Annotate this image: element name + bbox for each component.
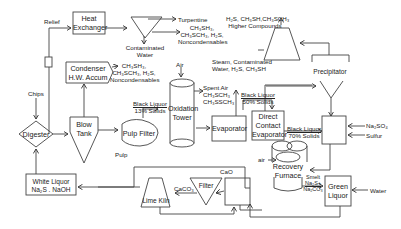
- cw-line-2: Water: [125, 51, 165, 58]
- water-label: Water: [370, 187, 386, 194]
- cond-gases-line-1: CH₃SH₃,: [110, 62, 158, 69]
- smelt-label: Smelt Na₂S+ Na₂CO₃: [302, 174, 324, 192]
- bl70-line-2: 70% Solids: [286, 132, 322, 139]
- caco3-label: CaCO₃: [174, 185, 194, 192]
- sulfur-label: Sulfur: [366, 132, 382, 139]
- recovery-furnace: Recovery Furnace: [270, 162, 306, 180]
- steam-line-1: Steam, Contaminated: [212, 58, 264, 65]
- spent-air-line-1: Spent Air: [203, 84, 234, 91]
- he-gases-label: CH₃SH₃, CH₃SCH₃, H₂S, Noncondensables: [178, 24, 226, 45]
- spent-air-label: Spent Air CH₃SCH₃ CH₃SSCH₃: [203, 84, 234, 105]
- dce-line-3: Evaporator: [252, 130, 284, 139]
- cond-gases-line-3: Noncondensables: [110, 76, 158, 83]
- turpentine-label: Turpentine: [178, 16, 207, 23]
- he-gases-line-2: CH₃SCH₃, H₂S,: [178, 31, 226, 38]
- hc-line-2: Higher Compounds: [226, 22, 284, 29]
- white-liquor-line-2: Na₂S . NaOH: [26, 186, 76, 194]
- air-label: Air: [176, 61, 184, 68]
- oxidation-tower-line-1: Oxidation: [168, 104, 196, 113]
- digester: Digester: [17, 130, 55, 139]
- evaporator: Evaporator: [212, 124, 246, 133]
- condenser-line-2: H.W. Accum: [66, 73, 110, 82]
- he-gases-line-1: CH₃SH₃,: [178, 24, 226, 31]
- bl13-line-1: Black Liquor: [132, 100, 168, 107]
- black-liquor-50-label: Black Liquor 50% Solids: [240, 91, 276, 105]
- cw-line-1: Contaminated: [125, 44, 165, 51]
- white-liquor: White Liquor Na₂S . NaOH: [26, 178, 76, 194]
- spent-air-line-3: CH₃SSCH₃: [203, 98, 234, 105]
- hc-line-1: H₂S, CH₃SH,CH₃SCH₃: [226, 15, 284, 22]
- recovery-furnace-line-2: Furnace: [270, 171, 306, 180]
- oxidation-tower-line-2: Tower: [168, 113, 196, 122]
- contaminated-water-label: Contaminated Water: [125, 44, 165, 58]
- he-gases-line-3: Noncondensables: [178, 38, 226, 45]
- lime-kiln: Lime Kiln: [140, 197, 172, 204]
- filter: Filter: [194, 182, 218, 189]
- condenser: Condenser H.W. Accum: [66, 64, 110, 82]
- dce-line-1: Direct: [252, 112, 284, 121]
- green-liquor-line-2: Liquor: [325, 191, 351, 200]
- direct-contact-evaporator: Direct Contact Evaporator: [252, 112, 284, 139]
- air-furnace-label: air: [258, 156, 265, 163]
- blow-tank: Blow Tank: [70, 120, 98, 138]
- relief-label: Relief: [44, 18, 60, 25]
- black-liquor-70-label: Black Liquor 70% Solids: [286, 125, 322, 139]
- cao-label: CaO: [220, 168, 233, 175]
- black-liquor-13-label: Black Liquor 13% Solids: [132, 100, 168, 114]
- chips-label: Chips: [28, 90, 44, 97]
- recovery-furnace-line-1: Recovery: [270, 162, 306, 171]
- dce-line-2: Contact: [252, 121, 284, 130]
- bl50-line-1: Black Liquor: [240, 91, 276, 98]
- bl50-line-2: 50% Solids: [240, 98, 276, 105]
- white-liquor-line-1: White Liquor: [26, 178, 76, 186]
- condenser-gases-label: CH₃SH₃, CH₃SCH₃, H₂S, Noncondensables: [110, 62, 158, 83]
- pulp-label: Pulp: [115, 151, 127, 158]
- condenser-line-1: Condenser: [66, 64, 110, 73]
- precipitator: Precipitator: [304, 68, 356, 75]
- smelt-line-3: Na₂CO₃: [302, 186, 324, 192]
- heat-exchanger-line-2: Exchanger: [73, 23, 105, 32]
- blow-tank-line-2: Tank: [70, 129, 98, 138]
- steam-label: Steam, Contaminated Water, H₂S, CH₃SH: [212, 58, 264, 72]
- higher-compounds-label: H₂S, CH₃SH,CH₃SCH₃ Higher Compounds: [226, 15, 284, 29]
- cond-gases-line-2: CH₃SCH₃, H₂S,: [110, 69, 158, 76]
- green-liquor-line-1: Green: [325, 182, 351, 191]
- heat-exchanger: Heat Exchanger: [73, 14, 105, 32]
- blow-tank-line-1: Blow: [70, 120, 98, 129]
- bl70-line-1: Black Liquor: [286, 125, 322, 132]
- pulp-filter: Pulp Filter: [120, 129, 158, 138]
- oxidation-tower: Oxidation Tower: [168, 104, 196, 122]
- bl13-line-2: 13% Solids: [132, 107, 168, 114]
- steam-line-2: Water, H₂S, CH₃SH: [212, 65, 264, 72]
- heat-exchanger-line-1: Heat: [73, 14, 105, 23]
- spent-air-line-2: CH₃SCH₃: [203, 91, 234, 98]
- green-liquor: Green Liquor: [325, 182, 351, 200]
- na2so4-label: Na₂SO₄: [366, 122, 388, 129]
